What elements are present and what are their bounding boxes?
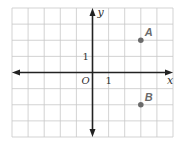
data-points: AB xyxy=(138,26,153,107)
y-axis-down-arrow-icon xyxy=(90,129,96,137)
y-axis-up-arrow-icon xyxy=(90,8,96,16)
x-axis-left-arrow-icon xyxy=(12,70,20,76)
coordinate-plane: x y O 1 1 AB xyxy=(0,0,190,151)
x-tick-label: 1 xyxy=(106,75,112,86)
point-a xyxy=(138,37,144,43)
y-tick-label: 1 xyxy=(83,51,89,62)
point-b xyxy=(138,102,144,108)
y-axis-label: y xyxy=(97,6,105,19)
origin-label: O xyxy=(82,75,90,86)
point-label-a: A xyxy=(144,26,153,38)
point-label-b: B xyxy=(145,91,153,103)
x-axis-label: x xyxy=(167,74,174,87)
